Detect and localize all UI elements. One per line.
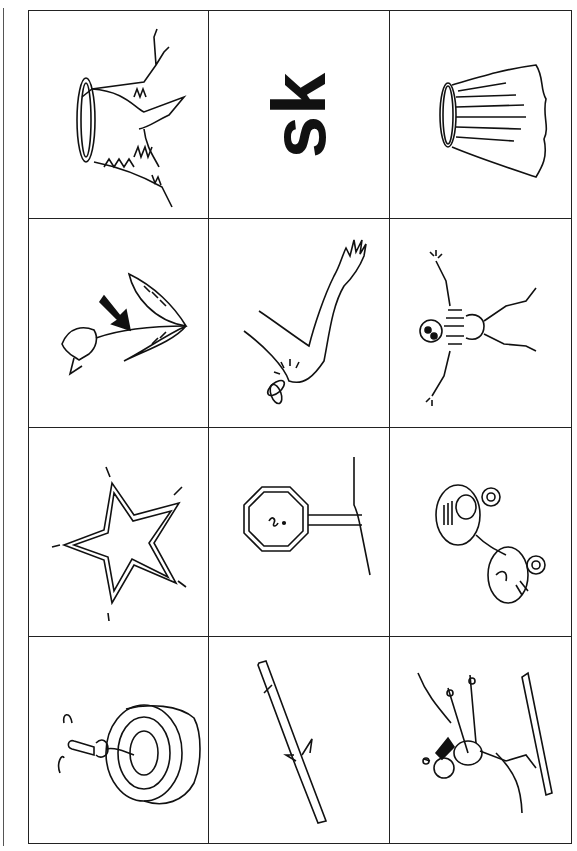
cell-stump[interactable] [29, 11, 209, 219]
cell-stick[interactable] [209, 637, 390, 843]
skeleton-icon [396, 226, 566, 421]
tulip-icon [34, 226, 204, 421]
star-icon [34, 435, 204, 630]
cell-skier[interactable] [390, 637, 571, 843]
stop-sign-icon [214, 435, 384, 630]
cell-arm[interactable] [209, 219, 390, 428]
cell-tape[interactable] [29, 637, 209, 843]
cell-sk-letters[interactable]: sk [209, 11, 390, 219]
cell-star[interactable] [29, 428, 209, 637]
cell-roller-skates[interactable] [390, 428, 571, 637]
tree-stump-icon [34, 17, 204, 212]
cell-skirt[interactable] [390, 11, 571, 219]
cell-stop-sign[interactable] [209, 428, 390, 637]
cell-skeleton[interactable] [390, 219, 571, 428]
skirt-icon [396, 17, 566, 212]
picture-grid: sk [28, 10, 572, 844]
margin-line [3, 8, 4, 846]
tape-roll-icon [34, 643, 204, 838]
cell-tulip[interactable] [29, 219, 209, 428]
stick-icon [214, 643, 384, 838]
arm-sting-icon [214, 226, 384, 421]
sk-letters: sk [261, 71, 337, 158]
skier-icon [396, 643, 566, 838]
roller-skates-icon [396, 435, 566, 630]
